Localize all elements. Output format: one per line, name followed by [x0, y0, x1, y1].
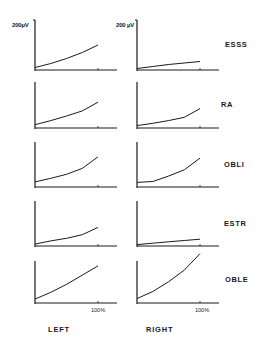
data-line-oble-left — [35, 266, 98, 299]
data-line-obli-right — [137, 158, 200, 182]
data-line-oble-right — [137, 254, 200, 299]
y-unit-label-left: 200µV — [12, 22, 28, 28]
row-label-obli: OBLI — [224, 160, 244, 169]
column-label-right: RIGHT — [146, 325, 173, 334]
row-label-ra: RA — [221, 100, 233, 109]
x-tick-label-left: 100% — [91, 307, 105, 313]
small-multiples-chart — [0, 0, 266, 354]
row-label-oble: OBLE — [225, 275, 248, 284]
y-unit-label-right: 200 µV — [116, 22, 134, 28]
x-tick-label-right: 100% — [195, 307, 209, 313]
row-label-estr: ESTR — [224, 219, 246, 228]
data-line-ra-right — [137, 109, 200, 126]
data-line-esss-right — [137, 62, 200, 69]
data-line-estr-right — [137, 239, 200, 244]
data-line-ra-left — [35, 102, 98, 125]
data-line-esss-left — [35, 45, 98, 68]
data-line-estr-left — [35, 227, 98, 244]
data-line-obli-left — [35, 157, 98, 182]
row-label-esss: ESSS — [225, 40, 247, 49]
column-label-left: LEFT — [48, 325, 70, 334]
